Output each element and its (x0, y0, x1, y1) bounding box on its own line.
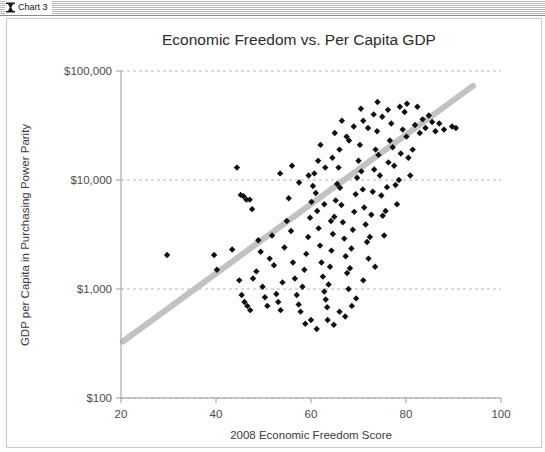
data-point (314, 208, 320, 214)
data-point (374, 128, 380, 134)
data-point (409, 146, 415, 152)
data-point (353, 295, 359, 301)
data-point (335, 164, 341, 170)
data-point (352, 191, 358, 197)
data-point (357, 142, 363, 148)
chart-window-icon (5, 2, 16, 13)
data-point (371, 166, 377, 172)
data-point (271, 262, 277, 268)
data-point (342, 313, 348, 319)
data-point (339, 117, 345, 123)
data-point (350, 226, 356, 232)
data-point (374, 99, 380, 105)
data-point (314, 326, 320, 332)
data-point (365, 125, 371, 131)
data-point (362, 221, 368, 227)
y-tick-label: $100 (86, 392, 112, 404)
data-point (360, 277, 366, 283)
data-point (341, 235, 347, 241)
data-points (164, 99, 459, 332)
data-point (292, 275, 298, 281)
x-tick-label: 20 (115, 408, 128, 420)
data-point (348, 245, 354, 251)
data-point (238, 292, 244, 298)
data-point (294, 292, 300, 298)
data-point (368, 212, 374, 218)
data-point (277, 307, 283, 313)
x-tick-label: 40 (210, 408, 223, 420)
data-point (333, 197, 339, 203)
data-point (385, 107, 391, 113)
data-point (308, 317, 314, 323)
data-point (394, 201, 400, 207)
data-point (273, 291, 279, 297)
window-title-group: Chart 3 (5, 0, 52, 15)
data-point (367, 234, 373, 240)
data-point (250, 275, 256, 281)
y-axis-ticks: $100$1,000$10,000$100,000 (64, 65, 121, 404)
data-point (262, 294, 268, 300)
data-point (392, 182, 398, 188)
data-point (290, 259, 296, 265)
data-point (330, 231, 336, 237)
data-point (327, 264, 333, 270)
data-point (338, 202, 344, 208)
data-point (323, 296, 329, 302)
chart-window: Chart 3 Economic Freedom vs. Per Capita … (0, 0, 545, 452)
data-point (257, 248, 263, 254)
data-point (299, 283, 305, 289)
data-point (324, 304, 330, 310)
data-point (360, 186, 366, 192)
y-tick-label: $100,000 (64, 65, 112, 77)
data-point (311, 170, 317, 176)
data-point (417, 130, 423, 136)
data-point (405, 155, 411, 161)
data-point (229, 246, 235, 252)
window-title: Chart 3 (18, 2, 48, 13)
data-point (377, 172, 383, 178)
data-point (275, 299, 281, 305)
data-point (379, 114, 385, 120)
data-point (318, 259, 324, 265)
x-tick-label: 60 (305, 408, 318, 420)
chart-title: Economic Freedom vs. Per Capita GDP (162, 31, 436, 48)
data-point (388, 120, 394, 126)
data-point (336, 146, 342, 152)
data-point (372, 264, 378, 270)
data-point (234, 164, 240, 170)
data-point (313, 190, 319, 196)
data-point (401, 109, 407, 115)
data-point (301, 267, 307, 273)
data-point (315, 158, 321, 164)
data-point (360, 117, 366, 123)
data-point (321, 201, 327, 207)
data-point (249, 206, 255, 212)
data-point (315, 225, 321, 231)
data-point (305, 234, 311, 240)
data-point (289, 163, 295, 169)
y-tick-label: $1,000 (77, 283, 112, 295)
scatter-chart: Economic Freedom vs. Per Capita GDP $100… (7, 19, 541, 447)
data-point (303, 251, 309, 257)
data-point (322, 164, 328, 170)
data-point (317, 242, 323, 248)
y-tick-label: $10,000 (70, 174, 112, 186)
data-point (329, 155, 335, 161)
data-point (279, 279, 285, 285)
data-point (307, 215, 313, 221)
chart-card: Economic Freedom vs. Per Capita GDP $100… (6, 18, 542, 448)
data-point (384, 184, 390, 190)
data-point (361, 204, 367, 210)
y-axis-title: GDP per Capita in Purchasing Power Parit… (19, 124, 31, 346)
data-point (381, 232, 387, 238)
data-point (391, 163, 397, 169)
data-point (371, 111, 377, 117)
data-point (385, 159, 391, 165)
x-tick-label: 100 (491, 408, 510, 420)
data-point (324, 317, 330, 323)
data-point (332, 130, 338, 136)
data-point (317, 142, 323, 148)
data-point (342, 253, 348, 259)
data-point (378, 192, 384, 198)
window-titlebar[interactable]: Chart 3 (0, 0, 545, 16)
